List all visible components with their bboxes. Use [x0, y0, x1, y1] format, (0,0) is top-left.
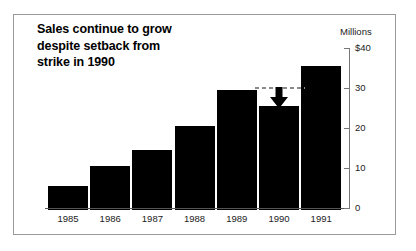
x-tick-label-1985: 1985 — [48, 213, 88, 224]
x-tick-label-1991: 1991 — [301, 213, 341, 224]
y-tick-10 — [344, 168, 350, 169]
y-tick-30 — [344, 88, 350, 89]
x-tick-label-1990: 1990 — [259, 213, 299, 224]
x-tick-label-1986: 1986 — [90, 213, 130, 224]
bar-1991 — [301, 66, 341, 210]
chart-figure: Sales continue to grow despite setback f… — [0, 0, 416, 251]
y-tick-label-30: 30 — [355, 83, 366, 93]
bar-1988 — [175, 126, 215, 210]
y-tick-label-0: 0 — [355, 203, 360, 213]
bar-1990 — [259, 106, 299, 210]
x-axis-baseline — [45, 208, 350, 209]
bar-1989 — [217, 90, 257, 210]
x-tick-label-1987: 1987 — [132, 213, 172, 224]
plot-area — [45, 44, 345, 209]
down-arrow-icon — [269, 87, 289, 109]
y-tick-label-$40: $40 — [355, 43, 371, 53]
y-tick-label-20: 20 — [355, 123, 366, 133]
y-tick-$40 — [344, 48, 350, 49]
y-tick-20 — [344, 128, 350, 129]
y-axis-title: Millions — [340, 26, 372, 37]
bar-1986 — [90, 166, 130, 210]
chart-title-line-1: Sales continue to grow — [37, 21, 287, 38]
bar-1987 — [132, 150, 172, 210]
y-tick-label-10: 10 — [355, 163, 366, 173]
x-tick-label-1988: 1988 — [175, 213, 215, 224]
y-tick-0 — [344, 208, 350, 209]
x-tick-label-1989: 1989 — [217, 213, 257, 224]
bar-1985 — [48, 186, 88, 210]
